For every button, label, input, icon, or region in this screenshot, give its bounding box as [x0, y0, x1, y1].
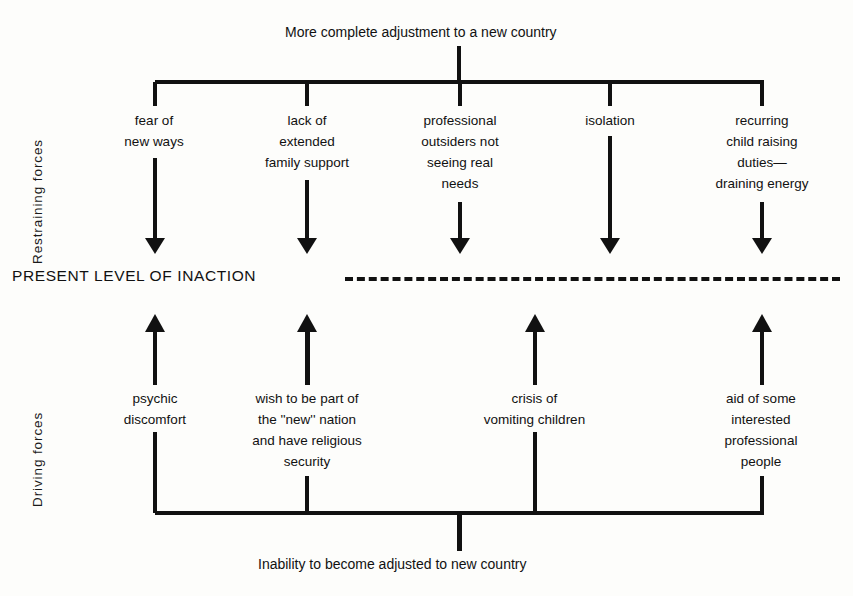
arrowhead-down-icon-4	[600, 238, 620, 254]
driving-arrow-shaft-3	[533, 330, 537, 385]
restraining-force-label-4: isolation	[546, 110, 674, 131]
driving-connector-2	[305, 476, 309, 513]
driving-center-stem	[457, 513, 462, 551]
arrowhead-down-icon-2	[297, 238, 317, 254]
bottom-caption: Inability to become adjusted to new coun…	[258, 556, 527, 572]
driving-connector-4	[760, 476, 764, 513]
driving-arrow-shaft-1	[153, 330, 157, 385]
restraining-connector-1	[153, 82, 157, 106]
axis-label-driving-forces: Driving forces	[30, 412, 45, 507]
driving-arrow-shaft-4	[760, 330, 764, 385]
restraining-force-label-2: lack of extended family support	[243, 110, 371, 173]
baseline-label: PRESENT LEVEL OF INACTION	[12, 267, 256, 285]
driving-force-label-4: aid of some interested professional peop…	[696, 388, 826, 472]
diagram-title: More complete adjustment to a new countr…	[285, 24, 557, 40]
restraining-connector-4	[608, 82, 612, 106]
restraining-connector-2	[305, 82, 309, 106]
restraining-arrow-shaft-5	[760, 202, 764, 238]
restraining-arrow-shaft-4	[608, 136, 612, 238]
restraining-connector-3	[458, 82, 462, 106]
driving-force-label-2: wish to be part of the ''new'' nation an…	[232, 388, 382, 472]
baseline-dashed-line	[345, 277, 840, 281]
force-field-diagram: More complete adjustment to a new countr…	[0, 0, 853, 596]
driving-force-label-1: psychic discomfort	[91, 388, 219, 430]
restraining-force-label-5: recurring child raising duties— draining…	[688, 110, 836, 194]
arrowheads-layer	[0, 0, 853, 596]
restraining-force-label-1: fear of new ways	[90, 110, 218, 152]
driving-arrow-shaft-2	[305, 330, 310, 385]
restraining-arrow-shaft-3	[458, 202, 462, 238]
restraining-force-label-3: professional outsiders not seeing real n…	[391, 110, 529, 194]
driving-connector-3	[533, 432, 537, 513]
driving-force-label-3: crisis of vomiting children	[463, 388, 606, 430]
restraining-center-stem	[457, 46, 461, 82]
restraining-arrow-shaft-2	[305, 180, 309, 238]
restraining-connector-5	[760, 82, 764, 106]
arrowhead-down-icon-3	[450, 238, 470, 254]
arrowhead-down-icon-5	[752, 238, 772, 254]
driving-connector-1	[153, 432, 157, 513]
arrowhead-down-icon-1	[145, 238, 165, 254]
axis-label-restraining-forces: Restraining forces	[30, 139, 45, 264]
restraining-arrow-shaft-1	[153, 158, 157, 238]
